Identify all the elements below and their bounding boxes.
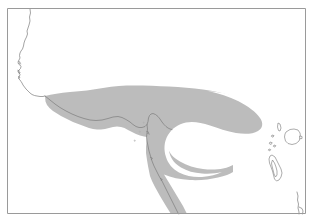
island-dot-c bbox=[273, 145, 275, 147]
distribution-map-figure bbox=[0, 0, 313, 224]
island-large-east bbox=[285, 129, 301, 145]
island-dot-a bbox=[271, 135, 274, 137]
island-large-east-notch bbox=[300, 136, 303, 139]
island-dot-d bbox=[268, 149, 270, 151]
map-canvas bbox=[0, 0, 313, 224]
